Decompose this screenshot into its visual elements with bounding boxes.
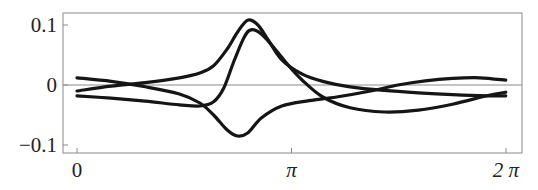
x-tick-label: π xyxy=(286,158,297,182)
line-chart: 0.10−0.1 0π2 π xyxy=(0,0,538,190)
series-line-curve-2 xyxy=(77,30,506,112)
y-tick-label: 0.1 xyxy=(31,13,57,37)
data-series xyxy=(77,20,506,136)
y-tick-label: 0 xyxy=(47,73,58,97)
y-axis-ticks: 0.10−0.1 xyxy=(19,13,68,157)
y-tick-label: −0.1 xyxy=(19,133,57,157)
x-tick-label: 0 xyxy=(72,158,83,182)
x-tick-label: 2 π xyxy=(493,158,520,182)
